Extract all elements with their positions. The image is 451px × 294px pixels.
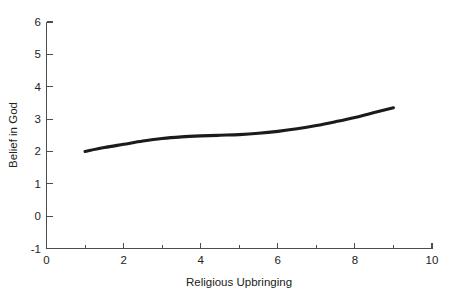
- y-tick-label-4: 4: [35, 81, 42, 93]
- x-axis-ticks: [47, 243, 433, 249]
- x-tick-label-10: 10: [426, 254, 439, 266]
- line-chart-canvas: -10123456 0246810 Religious Upbringing B…: [0, 0, 451, 294]
- y-tick-label-neg1: -1: [31, 243, 41, 255]
- y-axis-tick-labels: -10123456: [31, 16, 42, 255]
- x-tick-label-2: 2: [120, 254, 126, 266]
- chart-figure: -10123456 0246810 Religious Upbringing B…: [0, 0, 451, 294]
- y-axis-title: Belief in God: [7, 102, 19, 168]
- x-tick-label-4: 4: [197, 254, 204, 266]
- y-tick-label-1: 1: [35, 178, 41, 190]
- x-tick-label-6: 6: [275, 254, 281, 266]
- x-tick-label-0: 0: [43, 254, 49, 266]
- y-tick-label-2: 2: [35, 145, 41, 157]
- y-tick-label-3: 3: [35, 113, 41, 125]
- x-axis-title: Religious Upbringing: [186, 276, 292, 288]
- y-tick-label-6: 6: [35, 16, 41, 28]
- y-axis-ticks: [47, 22, 53, 249]
- y-tick-label-0: 0: [35, 210, 41, 222]
- x-tick-label-8: 8: [352, 254, 358, 266]
- x-axis: 0246810: [43, 243, 438, 267]
- x-axis-tick-labels: 0246810: [43, 254, 438, 266]
- y-tick-label-5: 5: [35, 48, 41, 60]
- data-series-line: [85, 108, 393, 152]
- y-axis: -10123456: [31, 16, 53, 255]
